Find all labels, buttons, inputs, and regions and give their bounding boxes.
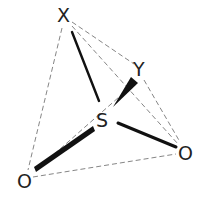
- bond-s-o-left-wedge: [34, 126, 95, 172]
- tetrahedron-edges: [28, 22, 180, 177]
- bond-s-o-right: [118, 123, 176, 147]
- atom-label-o-left: O: [17, 170, 32, 192]
- edge-x-o-left: [28, 28, 62, 170]
- tetrahedral-diagram: X Y S O O: [0, 0, 205, 198]
- bond-s-y-wedge: [113, 77, 138, 107]
- atom-label-y: Y: [132, 58, 145, 80]
- atom-label-x: X: [57, 4, 70, 26]
- bond-s-x: [72, 32, 99, 101]
- bonds: [34, 32, 176, 172]
- atom-label-s: S: [96, 109, 108, 131]
- edge-y-o-right: [144, 80, 180, 142]
- atom-label-o-right: O: [178, 142, 193, 164]
